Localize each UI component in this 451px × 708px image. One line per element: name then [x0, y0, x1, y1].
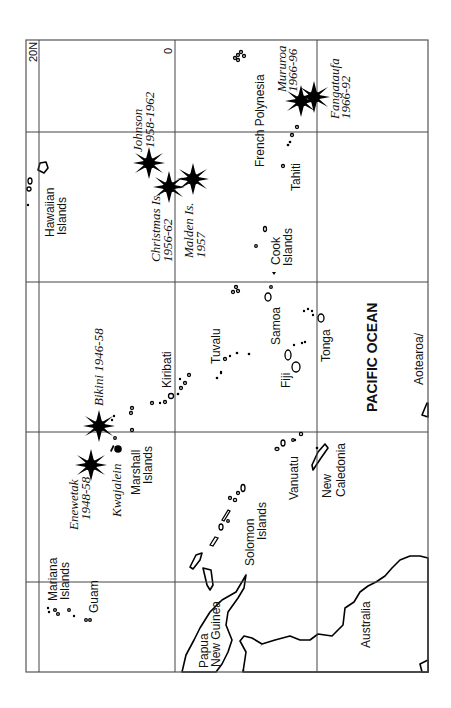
pacific-test-sites-map: 20N 0 Hawaiian Islands Johnson 1958-1962…	[0, 0, 451, 708]
marshall-label-2: Islands	[141, 446, 155, 484]
new-caledonia-island	[312, 444, 328, 470]
christmas-years: 1956-62	[160, 218, 175, 262]
malden-star-icon	[177, 163, 209, 195]
kiribati-label: Kiribati	[160, 351, 174, 388]
aotearoa-label: Aotearoa/	[412, 332, 426, 385]
solomon-island-2	[190, 553, 202, 569]
kwajalein-label: Kwajalein	[109, 464, 124, 518]
latitude-equator-label: 0	[162, 48, 174, 54]
australia-coast	[243, 556, 428, 672]
test-site-markers	[75, 81, 330, 481]
bikini-label: Bikini 1946-58	[91, 328, 106, 406]
mururoa-years: 1966-96	[285, 48, 300, 92]
french-polynesia-label: French Polynesia	[253, 74, 267, 167]
samoa-label: Samoa	[269, 307, 283, 345]
enewetak-star-icon	[75, 449, 107, 481]
bikini-star-icon	[83, 410, 115, 442]
australia-label: Australia	[359, 601, 373, 648]
vanuatu-label: Vanuatu	[287, 456, 301, 500]
johnson-years: 1958-1962	[142, 91, 157, 148]
latitude-20n-label: 20N	[27, 42, 39, 62]
hawaiian-label-2: Islands	[55, 197, 69, 235]
png-label-2: New Guinea	[209, 601, 223, 667]
fiji-label: Fiji	[279, 373, 293, 388]
fangataufa-years: 1966-92	[338, 75, 353, 119]
enewetak-years: 1948-58	[78, 476, 93, 520]
new-caledonia-label-2: Caledonia	[334, 443, 348, 497]
guam-label: Guam	[87, 580, 101, 613]
aotearoa-coast	[422, 403, 428, 417]
tahiti-label: Tahiti	[289, 163, 303, 191]
mariana-label-2: Islands	[58, 562, 72, 600]
solomon-island-1	[203, 568, 213, 590]
tonga-label: Tonga	[319, 329, 333, 362]
map-labels: 20N 0 Hawaiian Islands Johnson 1958-1962…	[27, 42, 426, 668]
kwajalein-dot	[114, 445, 122, 453]
malden-years: 1957	[193, 232, 208, 259]
new-caledonia-label-1: New	[320, 474, 334, 498]
pacific-ocean-label: PACIFIC OCEAN	[364, 303, 380, 412]
solomon-label-2: Islands	[255, 502, 269, 540]
cook-label-2: Islands	[281, 228, 295, 266]
tuvalu-label: Tuvalu	[209, 328, 223, 364]
